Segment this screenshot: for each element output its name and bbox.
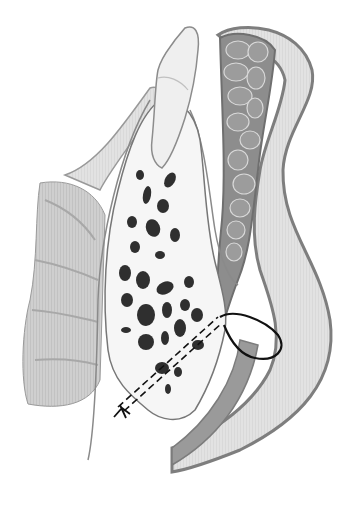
anatomical-illustration [0,0,354,508]
lip-muscle [23,182,105,406]
